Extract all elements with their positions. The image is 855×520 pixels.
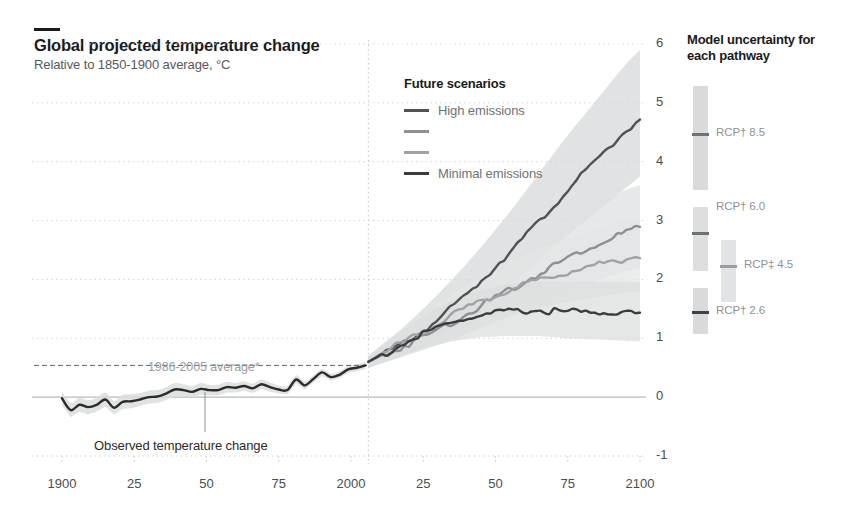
x-tick-label: 25 <box>104 476 164 491</box>
legend-uncertainty-title: Model uncertainty for each pathway <box>687 32 847 64</box>
x-tick-label: 1900 <box>32 476 92 491</box>
legend-future-item[interactable]: High emissions <box>404 100 634 121</box>
legend-future-scenarios: Future scenarios High emissionsMinimal e… <box>404 76 634 184</box>
x-tick-label: 75 <box>538 476 598 491</box>
y-tick-label: 0 <box>656 388 663 403</box>
uncertainty-range-bar <box>693 207 708 271</box>
y-tick-label: 6 <box>656 35 663 50</box>
uncertainty-legend-label: RCP† 6.0 <box>716 200 765 212</box>
uncertainty-line-swatch-icon <box>692 311 709 314</box>
uncertainty-line-swatch-icon <box>692 232 709 235</box>
legend-future-label: High emissions <box>438 103 525 118</box>
legend-line-swatch-icon <box>404 151 429 154</box>
x-tick-label: 2000 <box>321 476 381 491</box>
y-tick-label: 5 <box>656 94 663 109</box>
x-tick-label: 50 <box>177 476 237 491</box>
y-tick-label: 4 <box>656 153 663 168</box>
legend-future-item[interactable] <box>404 121 634 142</box>
uncertainty-line-swatch-icon <box>692 133 709 136</box>
uncertainty-legend-label: RCP† 2.6 <box>716 304 765 316</box>
uncertainty-legend-label: RCP‡ 4.5 <box>744 258 793 270</box>
x-tick-label: 50 <box>466 476 526 491</box>
legend-line-swatch-icon <box>404 130 429 133</box>
legend-future-item[interactable]: Minimal emissions <box>404 163 634 184</box>
x-tick-label: 25 <box>393 476 453 491</box>
y-tick-label: -1 <box>656 447 668 462</box>
legend-future-item[interactable] <box>404 142 634 163</box>
y-tick-label: 1 <box>656 329 663 344</box>
chart-root: Global projected temperature change Rela… <box>0 0 855 520</box>
x-tick-label: 75 <box>249 476 309 491</box>
legend-future-title: Future scenarios <box>404 76 634 91</box>
legend-future-label: Minimal emissions <box>438 166 543 181</box>
y-tick-label: 3 <box>656 212 663 227</box>
x-tick-label: 2100 <box>610 476 670 491</box>
uncertainty-legend-label: RCP† 8.5 <box>716 126 765 138</box>
observed-annotation: Observed temperature change <box>94 438 268 453</box>
uncertainty-range-bar <box>721 240 736 302</box>
baseline-annotation: 1986-2005 average* <box>148 360 260 374</box>
y-tick-label: 2 <box>656 270 663 285</box>
uncertainty-line-swatch-icon <box>720 265 737 268</box>
legend-line-swatch-icon <box>404 109 429 112</box>
uncertainty-range-bar <box>693 86 708 190</box>
legend-line-swatch-icon <box>404 172 429 175</box>
legend-model-uncertainty: Model uncertainty for each pathway <box>687 32 847 64</box>
